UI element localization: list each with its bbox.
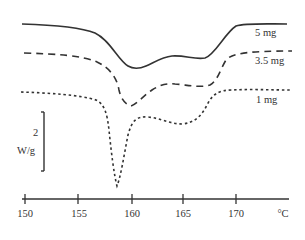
scale-bar bbox=[41, 112, 44, 171]
x-axis bbox=[22, 194, 289, 204]
scale-bar-unit: W/g bbox=[17, 146, 35, 157]
legend-5mg: 5 mg bbox=[255, 28, 276, 39]
scale-bar-value: 2 bbox=[33, 128, 38, 139]
curve-3_5mg bbox=[24, 51, 292, 106]
curve-1mg bbox=[21, 90, 290, 186]
legend-1mg: 1 mg bbox=[256, 95, 277, 106]
x-axis-unit: °C bbox=[277, 209, 288, 220]
x-tick-label: 170 bbox=[228, 209, 244, 220]
x-tick-label: 165 bbox=[175, 209, 191, 220]
legend-3_5mg: 3.5 mg bbox=[255, 56, 284, 67]
x-tick-label: 150 bbox=[17, 209, 33, 220]
x-tick-label: 160 bbox=[124, 209, 140, 220]
x-tick-label: 155 bbox=[71, 209, 87, 220]
curve-5mg bbox=[22, 24, 287, 68]
